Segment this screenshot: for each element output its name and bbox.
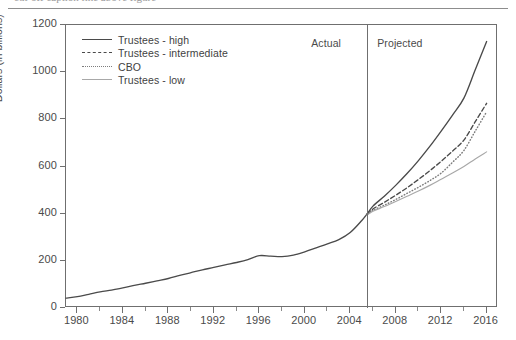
x-tick-mark <box>486 307 487 313</box>
x-minor-tick-mark <box>326 307 327 311</box>
series-line <box>367 152 486 215</box>
x-tick-mark <box>213 307 214 313</box>
x-minor-tick-mark <box>463 307 464 311</box>
legend-item[interactable]: Trustees - intermediate <box>82 47 228 61</box>
legend-line-swatch-solid-dark-icon <box>82 35 112 45</box>
x-minor-tick-mark <box>145 307 146 311</box>
x-tick-mark <box>395 307 396 313</box>
actual-projected-divider <box>367 25 368 308</box>
x-tick-label: 2000 <box>284 314 324 326</box>
legend-item-label: Trustees - low <box>118 74 185 86</box>
x-tick-label: 1992 <box>193 314 233 326</box>
x-tick-mark <box>76 307 77 313</box>
caption-strip: cut-off caption line above figure <box>0 0 516 9</box>
x-tick-label: 2016 <box>466 314 506 326</box>
x-tick-label: 2004 <box>329 314 369 326</box>
x-tick-mark <box>440 307 441 313</box>
series-line <box>367 42 486 214</box>
x-tick-label: 1996 <box>238 314 278 326</box>
legend-line-swatch-dashed-icon <box>82 48 112 58</box>
x-minor-tick-mark <box>190 307 191 311</box>
series-line <box>367 103 486 214</box>
figure-root: cut-off caption line above figure Actual… <box>0 0 516 340</box>
y-tick-label: 200 <box>17 253 57 265</box>
x-tick-mark <box>122 307 123 313</box>
series-line <box>367 112 486 215</box>
legend-item-label: Trustees - high <box>118 34 189 46</box>
x-minor-tick-mark <box>236 307 237 311</box>
x-tick-mark <box>304 307 305 313</box>
actual-label: Actual <box>311 37 341 49</box>
x-minor-tick-mark <box>417 307 418 311</box>
projected-label: Projected <box>377 37 422 49</box>
series-line <box>66 214 367 298</box>
y-tick-mark <box>60 166 65 167</box>
caption-rule <box>8 8 508 9</box>
legend-item-label: CBO <box>118 61 141 73</box>
y-tick-mark <box>60 260 65 261</box>
y-tick-mark <box>60 24 65 25</box>
y-tick-label: 1200 <box>17 17 57 29</box>
chart-legend: Trustees - highTrustees - intermediateCB… <box>82 33 228 87</box>
legend-item[interactable]: Trustees - high <box>82 33 228 47</box>
legend-line-swatch-solid-light-icon <box>82 75 112 85</box>
x-tick-label: 2012 <box>420 314 460 326</box>
y-tick-label: 0 <box>17 300 57 312</box>
y-tick-mark <box>60 307 65 308</box>
y-tick-label: 1000 <box>17 64 57 76</box>
y-axis-title: Dollars (in billions) <box>0 0 4 118</box>
y-tick-mark <box>60 118 65 119</box>
x-minor-tick-mark <box>281 307 282 311</box>
plot-inner: Actual Projected Trustees - highTrustees… <box>66 25 496 306</box>
legend-item[interactable]: CBO <box>82 60 228 74</box>
x-tick-mark <box>167 307 168 313</box>
y-tick-label: 800 <box>17 111 57 123</box>
caption-text: cut-off caption line above figure <box>14 0 156 3</box>
x-tick-label: 1988 <box>147 314 187 326</box>
y-tick-mark <box>60 71 65 72</box>
x-minor-tick-mark <box>372 307 373 311</box>
legend-item-label: Trustees - intermediate <box>118 47 228 59</box>
y-tick-mark <box>60 213 65 214</box>
x-tick-mark <box>349 307 350 313</box>
x-minor-tick-mark <box>99 307 100 311</box>
x-tick-label: 1980 <box>56 314 96 326</box>
x-tick-mark <box>258 307 259 313</box>
x-tick-label: 1984 <box>102 314 142 326</box>
legend-item[interactable]: Trustees - low <box>82 74 228 88</box>
plot-area: Actual Projected Trustees - highTrustees… <box>65 24 497 307</box>
x-tick-label: 2008 <box>375 314 415 326</box>
legend-line-swatch-dotted-icon <box>82 62 112 72</box>
y-tick-label: 600 <box>17 159 57 171</box>
y-tick-label: 400 <box>17 206 57 218</box>
